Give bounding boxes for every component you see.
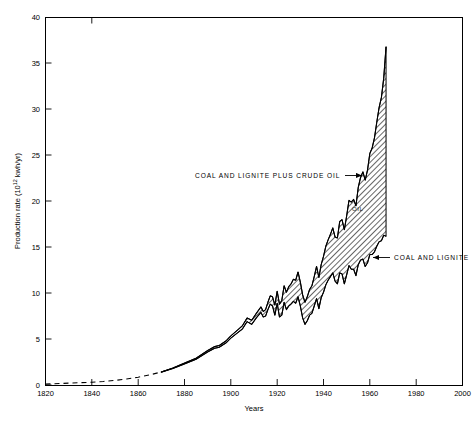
chart-canvas: 0 5 10 15 20 25 30 35 40 1820 1840	[0, 0, 475, 424]
y-tick-label-35: 35	[32, 59, 40, 68]
x-tick-1880: 1880	[176, 379, 193, 398]
x-tick-1900: 1900	[222, 379, 239, 398]
y-tick-5: 5	[36, 335, 52, 344]
y-tick-20: 20	[32, 197, 52, 206]
y-tick-label-20: 20	[32, 197, 40, 206]
y-tick-label-40: 40	[32, 13, 40, 22]
y-tick-label-10: 10	[32, 289, 40, 298]
y-tick-25: 25	[32, 151, 52, 160]
lower-band-label: COAL AND LIGNITE	[394, 254, 469, 261]
y-tick-30: 30	[32, 105, 52, 114]
x-axis-title: Years	[245, 404, 264, 413]
x-tick-label-1920: 1920	[269, 389, 286, 398]
x-tick-1860: 1860	[130, 379, 147, 398]
x-tick-1920: 1920	[269, 379, 286, 398]
data-band-group	[46, 47, 387, 384]
x-tick-2000: 2000	[454, 379, 471, 398]
x-tick-label-1880: 1880	[176, 389, 193, 398]
y-tick-35: 35	[32, 59, 52, 68]
y-tick-label-15: 15	[32, 243, 40, 252]
x-tick-label-1980: 1980	[408, 389, 425, 398]
svg-text:Production rate (1012 kwh/yr): Production rate (1012 kwh/yr)	[12, 152, 22, 249]
y-axis-title-post: kwh/yr)	[13, 152, 22, 179]
annotation-upper: COAL AND LIGNITE PLUS CRUDE OIL	[195, 172, 362, 179]
x-tick-label-1820: 1820	[37, 389, 54, 398]
y-tick-15: 15	[32, 243, 52, 252]
plot-frame	[46, 18, 463, 386]
x-tick-1940: 1940	[315, 379, 332, 398]
y-tick-label-30: 30	[32, 105, 40, 114]
annotation-lower: COAL AND LIGNITE	[373, 254, 469, 261]
production-rate-chart: 0 5 10 15 20 25 30 35 40 1820 1840	[0, 0, 475, 424]
x-tick-label-1960: 1960	[361, 389, 378, 398]
x-tick-label-1860: 1860	[130, 389, 147, 398]
y-tick-10: 10	[32, 289, 52, 298]
estimated-dashed-segment	[46, 372, 162, 384]
y-tick-label-25: 25	[32, 151, 40, 160]
y-tick-label-5: 5	[36, 335, 40, 344]
x-tick-label-1940: 1940	[315, 389, 332, 398]
x-tick-label-1900: 1900	[222, 389, 239, 398]
upper-band-label: COAL AND LIGNITE PLUS CRUDE OIL	[195, 172, 340, 179]
x-tick-1960: 1960	[361, 379, 378, 398]
x-tick-label-1840: 1840	[83, 389, 100, 398]
y-axis-ticks: 0 5 10 15 20 25 30 35 40	[32, 13, 52, 390]
y-axis-title-pre: Production rate (10	[13, 185, 22, 249]
y-axis-title: Production rate (1012 kwh/yr)	[12, 152, 22, 249]
y-tick-40: 40	[32, 13, 52, 22]
x-tick-label-2000: 2000	[454, 389, 471, 398]
oil-band-inline-label: OIL	[352, 206, 364, 212]
x-tick-1980: 1980	[408, 379, 425, 398]
x-axis-ticks: 1820 1840 1860 1880 1900 1920 1940 1960 …	[37, 18, 471, 399]
